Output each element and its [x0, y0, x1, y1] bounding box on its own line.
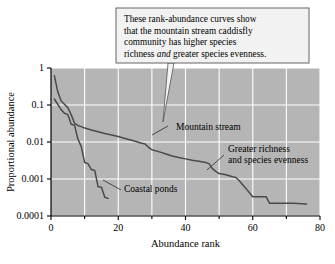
annotation-coastal-ponds: Coastal ponds	[124, 184, 178, 194]
annotation-line: Mountain stream	[176, 122, 241, 132]
x-tick-label: 20	[113, 222, 123, 233]
rank-abundance-chart: 10.10.010.0010.0001020406080 Abundance r…	[0, 0, 335, 264]
callout-line: These rank-abundance curves show	[124, 14, 257, 24]
callout-span: that the mountain stream caddisfly	[124, 26, 253, 36]
callout-line: richness and greater species evenness.	[124, 49, 266, 59]
y-tick-label: 0.1	[32, 99, 45, 110]
x-tick-label: 40	[181, 222, 191, 233]
callout-line: that the mountain stream caddisfly	[124, 26, 253, 36]
callout-span: These rank-abundance curves show	[124, 14, 257, 24]
callout-line: community has higher species	[124, 37, 237, 47]
callout-span: community has higher species	[124, 37, 237, 47]
y-tick-label: 0.01	[27, 136, 45, 147]
callout-span: greater species evenness.	[171, 49, 267, 59]
annotation-mountain-stream: Mountain stream	[176, 122, 241, 132]
x-tick-label: 80	[315, 222, 325, 233]
y-tick-label: 1	[39, 62, 44, 73]
annotation-line: Coastal ponds	[124, 184, 178, 194]
x-tick-label: 0	[49, 222, 54, 233]
annotation-line: Greater richness	[228, 144, 290, 154]
annotation-line: and species evenness	[228, 155, 308, 165]
y-axis-title: Proportional abundance	[5, 92, 16, 192]
x-tick-label: 60	[248, 222, 258, 233]
callout-emphasis: and	[157, 49, 171, 59]
callout-span: richness	[124, 49, 157, 59]
y-tick-label: 0.0001	[17, 210, 45, 221]
x-axis-title: Abundance rank	[151, 238, 221, 249]
y-tick-label: 0.001	[22, 173, 45, 184]
figure-container: 10.10.010.0010.0001020406080 Abundance r…	[0, 0, 335, 264]
